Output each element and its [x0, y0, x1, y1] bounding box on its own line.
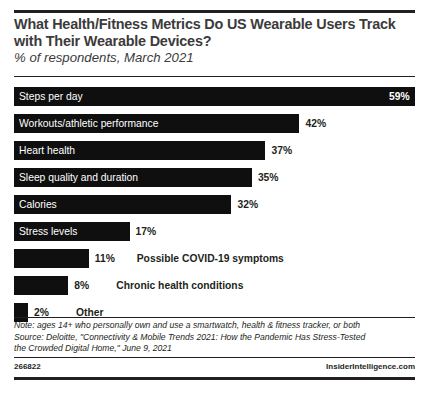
- bar: [14, 249, 89, 268]
- bar-row: Workouts/athletic performance42%: [14, 114, 415, 133]
- bar-value-label: 59%: [389, 87, 410, 106]
- bar-value-label: 32%: [237, 195, 258, 214]
- bar-row: Chronic health conditions8%: [14, 276, 415, 295]
- bar: [14, 276, 68, 295]
- bar-row: Stress levels17%: [14, 222, 415, 241]
- bar-category-label: Heart health: [19, 141, 75, 160]
- bar-category-label: Steps per day: [19, 87, 83, 106]
- bar-row: Possible COVID-19 symptoms11%: [14, 249, 415, 268]
- bar-row: Calories32%: [14, 195, 415, 214]
- bar-chart: Steps per day59%Workouts/athletic perfor…: [14, 87, 415, 330]
- bar-category-label: Workouts/athletic performance: [19, 114, 158, 133]
- bar-row: Steps per day59%: [14, 87, 415, 106]
- bar-category-label: Stress levels: [19, 222, 77, 241]
- bar-row: Sleep quality and duration35%: [14, 168, 415, 187]
- bar-category-label: Calories: [19, 195, 57, 214]
- footer-divider-rule: [14, 357, 415, 358]
- footer-chart-id: 266822: [14, 362, 41, 371]
- bottom-rule: [14, 377, 415, 380]
- bar-value-label: 8%: [74, 276, 89, 295]
- bar-category-label: Possible COVID-19 symptoms: [137, 249, 284, 268]
- bar-row: Heart health37%: [14, 141, 415, 160]
- note-block: Note: ages 14+ who personally own and us…: [14, 320, 415, 355]
- header-divider-rule: [14, 76, 415, 77]
- top-rule: [14, 10, 415, 13]
- page-title: What Health/Fitness Metrics Do US Wearab…: [14, 16, 409, 49]
- bar-value-label: 35%: [258, 168, 279, 187]
- note-line-2: Source: Deloitte, "Connectivity & Mobile…: [14, 332, 415, 344]
- bar-value-label: 42%: [305, 114, 326, 133]
- note-line-3: the Crowded Digital Home," June 9, 2021: [14, 343, 415, 355]
- note-line-1: Note: ages 14+ who personally own and us…: [14, 320, 415, 332]
- bar-value-label: 37%: [271, 141, 292, 160]
- note-divider-rule: [14, 317, 415, 318]
- bar-category-label: Chronic health conditions: [116, 276, 243, 295]
- footer-brand: InsiderIntelligence.com: [326, 362, 415, 371]
- bar-category-label: Sleep quality and duration: [19, 168, 138, 187]
- infographic-sheet: What Health/Fitness Metrics Do US Wearab…: [0, 0, 429, 394]
- page-subtitle: % of respondents, March 2021: [14, 50, 409, 65]
- bar-value-label: 17%: [136, 222, 157, 241]
- bar-value-label: 11%: [95, 249, 115, 268]
